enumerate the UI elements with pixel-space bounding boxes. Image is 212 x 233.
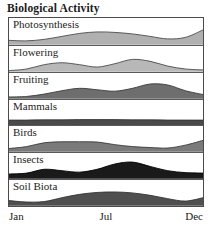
area-fill <box>9 192 203 206</box>
band-label-fruiting: Fruiting <box>13 73 48 86</box>
area-curve-birds <box>9 126 203 152</box>
x-tick-jul: Jul <box>100 209 113 223</box>
area-fill <box>9 141 203 152</box>
band-label-birds: Birds <box>13 126 37 139</box>
band-label-photosynthesis: Photosynthesis <box>13 18 79 31</box>
activity-band-insects: Insects <box>9 152 203 179</box>
activity-band-flowering: Flowering <box>9 45 203 72</box>
area-fill <box>9 83 203 98</box>
band-label-insects: Insects <box>13 153 44 166</box>
chart-plot-area: PhotosynthesisFloweringFruitingMammalsBi… <box>8 17 204 207</box>
area-outline <box>9 119 203 120</box>
band-label-mammals: Mammals <box>13 100 57 113</box>
activity-band-photosynthesis: Photosynthesis <box>9 18 203 45</box>
activity-band-birds: Birds <box>9 125 203 152</box>
x-axis: Jan Jul Dec <box>8 209 204 225</box>
x-tick-jan: Jan <box>9 209 24 223</box>
band-label-soil-biota: Soil Biota <box>13 180 57 193</box>
band-label-flowering: Flowering <box>13 46 58 59</box>
activity-band-mammals: Mammals <box>9 99 203 126</box>
activity-band-soil-biota: Soil Biota <box>9 179 203 206</box>
biological-activity-figure: Biological Activity PhotosynthesisFlower… <box>0 0 212 233</box>
activity-band-fruiting: Fruiting <box>9 72 203 99</box>
page-title: Biological Activity <box>7 1 100 15</box>
x-tick-dec: Dec <box>185 209 203 223</box>
